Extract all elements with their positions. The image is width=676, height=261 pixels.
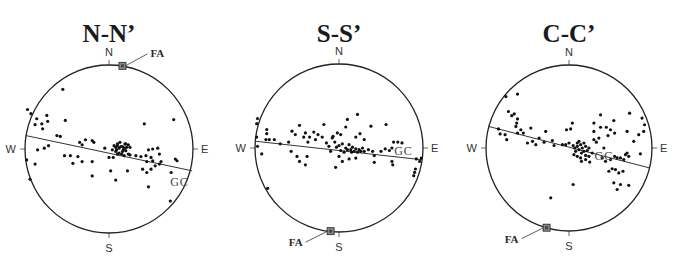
data-point [103, 147, 106, 150]
east-label: E [431, 142, 438, 154]
data-point [549, 196, 552, 199]
data-point [151, 147, 154, 150]
data-point [339, 133, 342, 136]
data-point [55, 134, 58, 137]
data-point [314, 138, 317, 141]
data-point [45, 114, 48, 117]
data-point [361, 146, 364, 149]
great-circle-line [26, 136, 192, 171]
data-point [290, 150, 293, 153]
data-point [149, 156, 152, 159]
data-point [344, 125, 347, 128]
data-point [347, 143, 350, 146]
fold-axis-marker-inner [121, 64, 124, 67]
data-point [577, 140, 580, 143]
fold-axis-leader [522, 228, 544, 239]
data-point [69, 154, 72, 157]
data-point [347, 157, 350, 160]
data-point [592, 138, 595, 141]
data-point [279, 142, 282, 145]
data-point [611, 167, 614, 170]
data-point [567, 141, 570, 144]
data-point [337, 144, 340, 147]
data-point [363, 138, 366, 141]
data-point [373, 154, 376, 157]
data-point [35, 117, 38, 120]
stereonet-3: C-C’NSWEGCFA [467, 20, 668, 252]
data-point [128, 153, 131, 156]
data-point [25, 158, 28, 161]
data-point [145, 160, 148, 163]
data-point [420, 156, 423, 159]
east-label: E [660, 142, 667, 154]
data-point [308, 135, 311, 138]
north-label: N [565, 46, 573, 58]
primitive-circle [25, 65, 193, 233]
data-point [571, 122, 574, 125]
data-point [321, 135, 324, 138]
data-point [256, 145, 259, 148]
data-point [605, 126, 608, 129]
data-point [607, 170, 610, 173]
data-point [295, 155, 298, 158]
data-point [298, 124, 301, 127]
data-point [544, 130, 547, 133]
data-point [260, 152, 263, 155]
data-point [265, 132, 268, 135]
data-point [497, 127, 500, 130]
data-point [581, 146, 584, 149]
data-point [59, 135, 62, 138]
data-point [332, 135, 335, 138]
data-point [273, 138, 276, 141]
data-point [143, 122, 146, 125]
south-label: S [565, 240, 572, 252]
data-point [359, 150, 362, 153]
data-point [111, 148, 114, 151]
data-point [92, 141, 95, 144]
data-point [612, 181, 615, 184]
data-point [627, 184, 630, 187]
data-point [592, 122, 595, 125]
data-point [139, 155, 142, 158]
data-point [643, 123, 646, 126]
data-point [588, 161, 591, 164]
data-point [43, 147, 46, 150]
data-point [47, 144, 50, 147]
data-point [154, 164, 157, 167]
data-point [316, 133, 319, 136]
data-point [582, 150, 585, 153]
data-point [616, 156, 619, 159]
data-point [529, 126, 532, 129]
data-point [599, 113, 602, 116]
north-label: N [105, 46, 113, 58]
north-label: N [335, 45, 343, 57]
data-point [569, 127, 572, 130]
data-point [574, 150, 577, 153]
data-point [298, 160, 301, 163]
fold-axis-marker-inner [329, 230, 332, 233]
data-point [531, 140, 534, 143]
data-point [156, 147, 159, 150]
stereonet-2: S-S’NSWEGCFA [236, 20, 439, 253]
data-point [418, 160, 421, 163]
stereonet-title: N-N’ [83, 20, 136, 47]
data-point [112, 156, 115, 159]
data-point [26, 108, 29, 111]
data-point [522, 131, 525, 134]
data-point [128, 146, 131, 149]
data-point [290, 130, 293, 133]
data-point [151, 159, 154, 162]
data-point [354, 156, 357, 159]
data-point [337, 155, 340, 158]
data-point [505, 138, 508, 141]
data-point [256, 117, 259, 120]
data-point [264, 138, 267, 141]
data-point [576, 155, 579, 158]
data-point [612, 119, 615, 122]
data-point [119, 145, 122, 148]
data-point [255, 135, 258, 138]
data-point [587, 146, 590, 149]
data-point [40, 122, 43, 125]
data-point [516, 92, 519, 95]
data-point [515, 122, 518, 125]
